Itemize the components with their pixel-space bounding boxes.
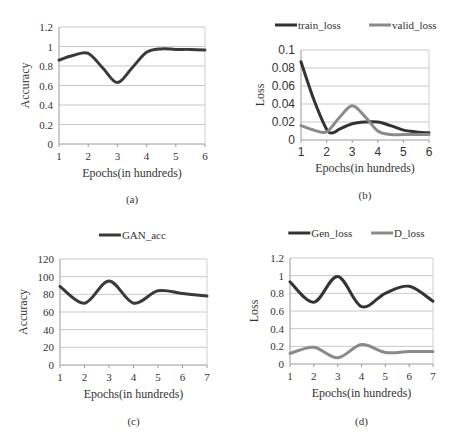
x-tick-label: 2 (82, 371, 88, 383)
x-tick-label: 2 (311, 370, 317, 382)
x-tick-label: 1 (298, 145, 305, 159)
y-tick-label: 0.04 (272, 97, 296, 111)
legend: train_lossvalid_loss (275, 19, 437, 31)
x-tick-label: 1 (57, 371, 63, 383)
y-tick-label: 0.2 (39, 119, 53, 131)
legend: GAN_acc (99, 229, 166, 241)
x-axis-label: Epochs(in hundreds) (82, 166, 182, 180)
x-tick-label: 6 (406, 370, 412, 382)
x-tick-label: 2 (323, 145, 330, 159)
y-tick-label: 0.8 (270, 287, 284, 299)
y-tick-label: 0.4 (39, 99, 53, 111)
x-tick-label: 3 (115, 150, 121, 162)
legend-label: Gen_loss (311, 227, 352, 239)
figure-caption: (d) (355, 415, 368, 428)
y-tick-label: 0 (48, 138, 54, 150)
x-tick-label: 7 (204, 371, 210, 383)
legend-label: GAN_acc (122, 229, 166, 241)
x-axis-label: Epochs(in hundreds) (315, 161, 415, 175)
x-tick-label: 5 (173, 150, 179, 162)
x-tick-label: 3 (106, 371, 112, 383)
y-tick-label: 80 (43, 288, 55, 300)
figure-caption: (a) (126, 193, 139, 206)
x-tick-label: 4 (374, 145, 381, 159)
y-tick-label: 1.2 (39, 21, 53, 33)
y-tick-label: 0.06 (272, 79, 296, 93)
y-tick-label: 1 (279, 270, 285, 282)
y-tick-label: 100 (38, 271, 55, 283)
y-tick-label: 20 (43, 341, 55, 353)
gan-accuracy-chart-c: 0204060801001201234567Epochs(in hundreds… (0, 222, 227, 444)
y-tick-label: 0.8 (39, 60, 53, 72)
chart-panel-d: 00.20.40.60.811.21234567Epochs(in hundre… (227, 222, 454, 444)
y-axis-label: Loss (253, 83, 267, 106)
x-tick-label: 1 (287, 370, 293, 382)
legend-label: valid_loss (392, 19, 437, 31)
legend-label: train_loss (298, 19, 341, 31)
y-tick-label: 0.02 (272, 115, 296, 129)
y-axis-label: Accuracy (16, 289, 30, 335)
y-axis-label: Loss (247, 299, 261, 322)
x-tick-label: 5 (383, 370, 389, 382)
x-tick-label: 4 (144, 150, 150, 162)
legend-label: D_loss (394, 227, 425, 239)
x-tick-label: 6 (426, 145, 433, 159)
y-tick-label: 0.6 (270, 305, 284, 317)
figure-caption: (b) (359, 189, 372, 202)
y-tick-label: 60 (43, 306, 55, 318)
y-tick-label: 0.1 (278, 43, 295, 57)
y-tick-label: 120 (38, 253, 55, 265)
y-tick-label: 1 (48, 41, 54, 53)
x-tick-label: 6 (180, 371, 186, 383)
y-tick-label: 0.2 (270, 340, 284, 352)
y-tick-label: 0.4 (270, 323, 284, 335)
x-tick-label: 7 (430, 370, 436, 382)
x-tick-label: 3 (335, 370, 341, 382)
x-tick-label: 5 (400, 145, 407, 159)
y-tick-label: 0.6 (39, 80, 53, 92)
chart-panel-c: 0204060801001201234567Epochs(in hundreds… (0, 222, 227, 444)
y-tick-label: 1.2 (270, 252, 284, 264)
x-tick-label: 4 (131, 371, 137, 383)
x-tick-label: 5 (155, 371, 161, 383)
x-tick-label: 3 (349, 145, 356, 159)
y-tick-label: 0 (279, 358, 285, 370)
x-tick-label: 2 (85, 150, 91, 162)
series-line-gan-acc (60, 281, 207, 303)
x-tick-label: 6 (202, 150, 208, 162)
x-tick-label: 1 (56, 150, 62, 162)
chart-panel-b: 00.020.040.060.080.1123456Epochs(in hund… (227, 0, 454, 222)
legend: Gen_lossD_loss (288, 227, 424, 239)
x-tick-label: 4 (359, 370, 365, 382)
y-tick-label: 0 (49, 359, 55, 371)
y-axis-label: Accuracy (18, 63, 32, 109)
y-tick-label: 40 (43, 324, 55, 336)
x-axis-label: Epochs(in hundreds) (84, 387, 184, 401)
x-axis-label: Epochs(in hundreds) (312, 386, 412, 400)
figure-caption: (c) (127, 415, 140, 428)
y-tick-label: 0.08 (272, 61, 296, 75)
y-tick-label: 0 (288, 133, 295, 147)
gan-loss-chart-d: 00.20.40.60.811.21234567Epochs(in hundre… (227, 222, 454, 444)
series-line-gen-loss (290, 276, 433, 307)
loss-chart-b: 00.020.040.060.080.1123456Epochs(in hund… (227, 0, 454, 222)
chart-panel-a: 00.20.40.60.811.2123456Epochs(in hundred… (0, 0, 227, 222)
accuracy-chart-a: 00.20.40.60.811.2123456Epochs(in hundred… (0, 0, 227, 222)
